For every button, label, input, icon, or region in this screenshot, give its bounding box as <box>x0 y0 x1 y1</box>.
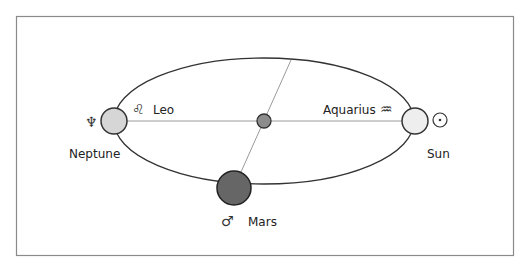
center-body <box>257 114 271 128</box>
sun-symbol-dot <box>439 119 442 122</box>
leo-label: Leo <box>153 103 174 117</box>
sun-body <box>402 108 428 134</box>
aquarius-label: Aquarius <box>323 103 376 117</box>
neptune-planet <box>101 108 127 134</box>
sun-label: Sun <box>427 147 450 161</box>
neptune-label: Neptune <box>69 147 120 161</box>
mars-planet <box>217 171 251 205</box>
orbit-diagram: ♆ Neptune ♌ Leo Aquarius ♒ Sun ♂ Mars <box>0 0 528 271</box>
mars-symbol-icon: ♂ <box>221 213 234 229</box>
leo-symbol-icon: ♌ <box>132 101 145 117</box>
neptune-symbol-icon: ♆ <box>85 114 98 130</box>
mars-label: Mars <box>248 215 277 229</box>
aquarius-symbol-icon: ♒ <box>380 101 393 117</box>
